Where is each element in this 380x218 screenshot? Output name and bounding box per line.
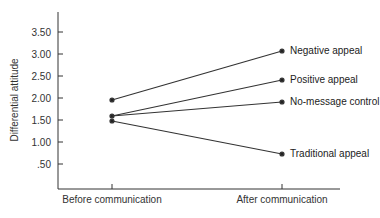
y-tick-label: 2.00 <box>32 93 52 104</box>
x-tick-label-after: After communication <box>236 194 327 205</box>
chart: .50 1.00 1.50 2.00 2.50 3.00 3.50 Differ… <box>0 0 380 218</box>
label-negative-appeal: Negative appeal <box>290 45 362 56</box>
label-traditional-appeal: Traditional appeal <box>290 148 369 159</box>
series-traditional-appeal <box>112 121 282 154</box>
y-tick-label: 3.50 <box>32 27 52 38</box>
series-no-message-control <box>112 102 282 116</box>
y-tick-label: 2.50 <box>32 71 52 82</box>
y-tick-label: .50 <box>37 159 51 170</box>
series-lines <box>110 49 284 156</box>
y-tick-label: 1.50 <box>32 115 52 126</box>
y-tick-labels: .50 1.00 1.50 2.00 2.50 3.00 3.50 <box>32 27 52 170</box>
y-tick-label: 3.00 <box>32 49 52 60</box>
series-positive-appeal <box>112 80 282 116</box>
label-no-message-control: No-message control <box>290 96 379 107</box>
y-axis-title: Differential attitude <box>9 58 20 142</box>
label-positive-appeal: Positive appeal <box>290 74 358 85</box>
y-tick-label: 1.00 <box>32 137 52 148</box>
x-tick-label-before: Before communication <box>62 194 162 205</box>
series-negative-appeal <box>112 51 282 100</box>
y-ticks <box>58 32 63 164</box>
